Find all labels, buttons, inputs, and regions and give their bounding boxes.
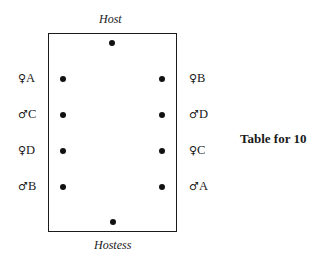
- female-symbol-icon: ♀: [189, 72, 197, 85]
- guest-label-right-4: ♂A: [189, 179, 208, 194]
- guest-label-left-2: ♂C: [18, 107, 36, 122]
- seat-left-1: [60, 76, 66, 82]
- seat-right-3: [159, 148, 165, 154]
- diagram-caption: Table for 10: [240, 131, 306, 147]
- male-symbol-icon: ♂: [189, 108, 199, 121]
- guest-label-left-3: ♀D: [18, 143, 35, 158]
- female-symbol-icon: ♀: [189, 144, 197, 157]
- male-symbol-icon: ♂: [18, 180, 28, 193]
- seat-right-4: [159, 184, 165, 190]
- guest-label-left-4: ♂B: [18, 179, 36, 194]
- male-symbol-icon: ♂: [189, 180, 199, 193]
- hostess-label: Hostess: [94, 238, 131, 253]
- seat-host: [109, 40, 115, 46]
- seat-left-4: [60, 184, 66, 190]
- seat-left-2: [60, 112, 66, 118]
- seat-hostess: [110, 219, 116, 225]
- host-label: Host: [99, 12, 122, 27]
- guest-label-right-3: ♀C: [189, 143, 205, 158]
- seat-left-3: [60, 148, 66, 154]
- guest-label-right-2: ♂D: [189, 107, 208, 122]
- female-symbol-icon: ♀: [18, 144, 26, 157]
- dining-table: [48, 33, 177, 232]
- female-symbol-icon: ♀: [18, 72, 26, 85]
- guest-label-right-1: ♀B: [189, 71, 205, 86]
- seat-right-1: [159, 76, 165, 82]
- guest-label-left-1: ♀A: [18, 71, 35, 86]
- male-symbol-icon: ♂: [18, 108, 28, 121]
- seat-right-2: [159, 112, 165, 118]
